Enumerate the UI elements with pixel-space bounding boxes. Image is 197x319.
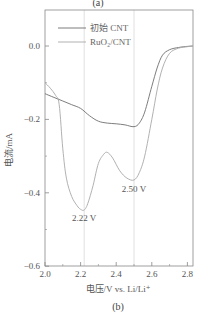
- plot-frame: [45, 10, 193, 266]
- y-tick-label: −0.6: [24, 261, 41, 271]
- x-tick-label: 2.4: [111, 269, 123, 279]
- peak-label: 2.50 V: [122, 184, 147, 194]
- y-axis-label: 电流/mA: [3, 133, 14, 168]
- data-series: [45, 46, 193, 210]
- y-tick-label: 0.0: [29, 41, 41, 51]
- x-tick-label: 2.2: [75, 269, 86, 279]
- guide-lines: [84, 10, 134, 266]
- top-caption: (a): [92, 0, 103, 9]
- legend-label: 初始 CNT: [90, 22, 129, 33]
- peak-label: 2.22 V: [72, 213, 97, 223]
- series-line-0: [45, 46, 193, 127]
- peak-annotations: 2.22 V2.50 V: [72, 184, 147, 223]
- x-tick-label: 2.0: [39, 269, 51, 279]
- x-axis-ticks: 2.02.22.42.62.8: [39, 262, 193, 279]
- series-line-1: [45, 46, 193, 210]
- bottom-caption: (b): [112, 301, 124, 313]
- y-tick-label: −0.2: [24, 114, 40, 124]
- y-tick-label: −0.4: [24, 188, 41, 198]
- legend-label: RuO₂/CNT: [90, 37, 131, 47]
- legend: 初始 CNTRuO₂/CNT: [58, 22, 131, 47]
- x-tick-label: 2.8: [182, 269, 194, 279]
- x-axis-label: 电压/V vs. Li/Li⁺: [86, 283, 151, 294]
- cv-chart: (a) 0.0−0.2−0.4−0.6 2.02.22.42.62.8 初始 C…: [0, 0, 197, 319]
- x-tick-label: 2.6: [146, 269, 158, 279]
